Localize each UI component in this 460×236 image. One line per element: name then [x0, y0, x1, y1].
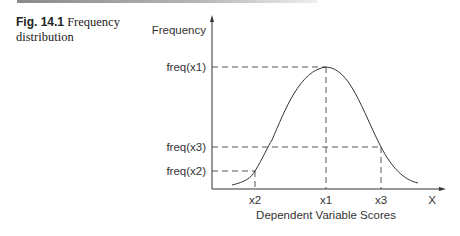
y-axis-label: Frequency: [152, 24, 207, 36]
y-tick-freq-x3: freq(x3): [166, 141, 206, 153]
x-axis-label: Dependent Variable Scores: [256, 209, 396, 221]
y-tick-freq-x1: freq(x1): [166, 61, 206, 73]
x-axis-arrow-icon: [439, 187, 446, 191]
frequency-chart: Frequency freq(x1) freq(x3) freq(x2) x2 …: [0, 0, 460, 236]
y-tick-freq-x2: freq(x2): [166, 165, 206, 177]
y-axis-arrow-icon: [210, 15, 214, 22]
x-tick-x3: x3: [375, 194, 387, 206]
x-tick-x1: x1: [320, 194, 332, 206]
x-axis-end-label: X: [428, 194, 436, 206]
guide-lines: [212, 67, 381, 189]
bell-curve: [232, 67, 418, 185]
x-tick-x2: x2: [249, 194, 261, 206]
